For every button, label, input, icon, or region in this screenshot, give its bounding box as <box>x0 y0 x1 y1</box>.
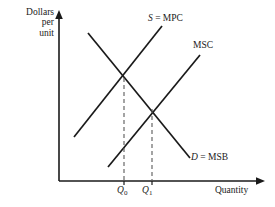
curve-msc <box>108 55 200 167</box>
x-tick-label-q1: Q1 <box>142 185 152 197</box>
x-tick-label-q0: Q0 <box>117 185 127 197</box>
y-axis-arrowhead <box>55 10 63 19</box>
y-axis-label: Dollars per unit <box>6 7 54 38</box>
curve-label-s-mpc: S = MPC <box>148 13 183 23</box>
curve-d-msb <box>88 33 190 158</box>
curve-label-d-msb: D = MSB <box>191 152 228 162</box>
curve-label-d-msb-equals: = <box>198 152 208 162</box>
y-axis-label-line-2: per <box>6 17 54 27</box>
x-tick-label-q1-symbol: Q <box>142 185 149 195</box>
y-axis-label-line-3: unit <box>6 28 54 38</box>
x-axis-arrowhead <box>256 177 265 185</box>
x-axis-label: Quantity <box>215 185 248 195</box>
curve-label-d-msb-symbol: D <box>191 152 198 162</box>
y-axis-label-line-1: Dollars <box>6 7 54 17</box>
x-tick-label-q0-symbol: Q <box>117 185 124 195</box>
curve-label-s-mpc-equals: = <box>153 13 163 23</box>
curve-label-msc: MSC <box>193 40 213 50</box>
externality-diagram: Dollars per unit Quantity S = MPC MSC D … <box>0 0 275 207</box>
curve-s-mpc <box>74 26 162 137</box>
x-tick-label-q1-subscript: 1 <box>149 189 153 197</box>
curve-label-s-mpc-name: MPC <box>163 13 183 23</box>
x-tick-label-q0-subscript: 0 <box>124 189 128 197</box>
curve-label-d-msb-name: MSB <box>208 152 228 162</box>
